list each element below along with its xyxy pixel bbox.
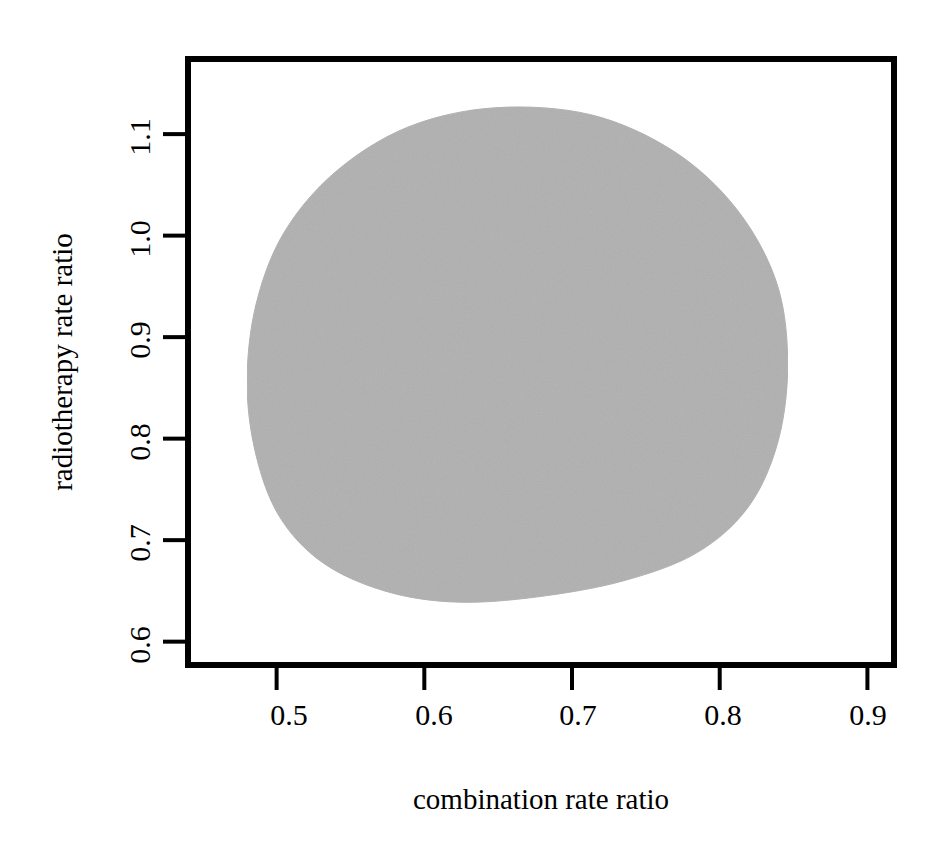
y-axis-title: radiotherapy rate ratio: [48, 233, 77, 491]
y-tick-label-5: 1.1: [125, 118, 155, 156]
x-tick-label-0: 0.5: [270, 700, 308, 730]
x-axis-title: combination rate ratio: [413, 785, 669, 814]
confidence-region-group: [247, 107, 788, 602]
y-tick-label-2: 0.8: [125, 423, 155, 461]
y-tick-label-4: 1.0: [125, 220, 155, 258]
y-tick-label-0: 0.6: [125, 626, 155, 664]
x-axis-ticks: [277, 668, 868, 690]
x-tick-label-2: 0.7: [559, 700, 597, 730]
x-tick-label-4: 0.9: [849, 700, 887, 730]
confidence-region-shape: [247, 107, 788, 602]
y-tick-label-3: 0.9: [125, 321, 155, 359]
x-tick-label-1: 0.6: [415, 700, 453, 730]
y-tick-label-1: 0.7: [125, 524, 155, 562]
x-tick-label-3: 0.8: [704, 700, 742, 730]
chart-figure: 0.5 0.6 0.7 0.8 0.9 0.6 0.7 0.8 0.9 1.0 …: [0, 0, 940, 853]
y-axis-ticks: [163, 134, 185, 642]
